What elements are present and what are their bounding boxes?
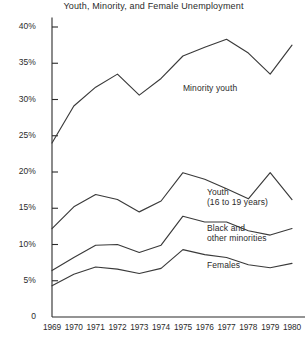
series-label-3: Females [207, 260, 240, 271]
y-axis-tick-label: 5% [2, 275, 36, 285]
chart-container: Youth, Minority, and Female Unemployment… [0, 0, 307, 339]
series-label-line-2: other minorities [207, 233, 267, 244]
x-axis-tick-label: 1975 [172, 322, 194, 332]
x-axis-tick-label: 1980 [281, 322, 303, 332]
series-line-0 [52, 39, 292, 143]
y-axis-tick-label: 10% [2, 239, 36, 249]
series-line-3 [52, 250, 292, 286]
series-label-line-2: (16 to 19 years) [207, 197, 268, 208]
y-axis-tick-label: 25% [2, 130, 36, 140]
x-axis-tick-label: 1977 [216, 322, 238, 332]
series-label-1: Youth(16 to 19 years) [207, 187, 268, 208]
x-axis-tick-label: 1976 [194, 322, 216, 332]
x-axis-tick-label: 1969 [41, 322, 63, 332]
y-axis-tick-label: 35% [2, 57, 36, 67]
series-label-line-1: Black and [207, 223, 267, 234]
y-axis-tick-label: 0 [2, 311, 36, 321]
x-axis-tick-label: 1978 [237, 322, 259, 332]
y-axis-tick-label: 30% [2, 94, 36, 104]
x-axis-tick-label: 1970 [63, 322, 85, 332]
x-axis-tick-label: 1974 [150, 322, 172, 332]
x-axis-tick-label: 1972 [106, 322, 128, 332]
y-axis-tick-label: 40% [2, 21, 36, 31]
x-axis-tick-label: 1973 [128, 322, 150, 332]
y-axis-tick-label: 20% [2, 166, 36, 176]
y-axis-tick-label: 15% [2, 202, 36, 212]
chart-plot-area [0, 0, 307, 339]
series-label-2: Black andother minorities [207, 223, 267, 244]
x-axis-tick-label: 1979 [259, 322, 281, 332]
series-label-0: Minority youth [183, 83, 237, 94]
x-axis-tick-label: 1971 [85, 322, 107, 332]
series-label-line-1: Youth [207, 187, 268, 198]
